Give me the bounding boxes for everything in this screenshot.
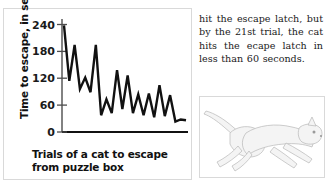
escape-time-data-line: [64, 25, 186, 121]
cat-eye: [313, 131, 316, 134]
chart-svg: 240 180 120 60 0: [26, 13, 190, 147]
cat-head: [298, 124, 322, 144]
textbook-page-fragment: Time to escape, in seconds 240: [0, 0, 328, 185]
body-paragraph: hit the escape latch, but by the 21st tr…: [199, 12, 323, 66]
y-tick-label: 0: [47, 126, 55, 139]
cat-ear: [308, 117, 316, 126]
cat-illustration-panel: [199, 96, 325, 178]
y-tick-label: 60: [40, 99, 56, 112]
y-tick-label: 180: [32, 45, 55, 58]
chart-plot-area: 240 180 120 60 0: [26, 13, 190, 147]
cat-nose: [320, 135, 322, 137]
leaping-cat-icon: [200, 97, 324, 177]
chart-x-axis-title-line1: Trials of a cat to escape: [32, 148, 192, 161]
y-tick-label: 240: [32, 19, 55, 32]
y-axis-tick-labels: 240 180 120 60 0: [32, 19, 55, 140]
chart-x-axis-title: Trials of a cat to escape from puzzle bo…: [32, 148, 192, 173]
y-tick-label: 120: [32, 72, 55, 85]
escape-time-chart-figure: Time to escape, in seconds 240: [3, 8, 192, 180]
chart-x-axis-title-line2: from puzzle box: [32, 161, 192, 174]
